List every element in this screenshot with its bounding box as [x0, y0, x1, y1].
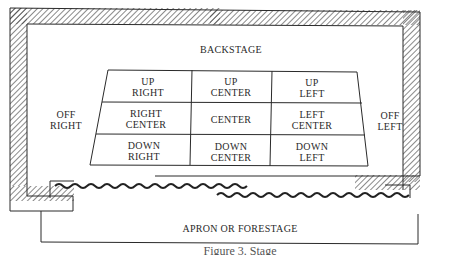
cell-line: DOWN — [270, 141, 354, 152]
cell-line: LEFT — [270, 88, 354, 99]
off-right-line2: RIGHT — [44, 120, 88, 131]
cell-line: CENTER — [270, 120, 354, 131]
cell-line: UP — [189, 76, 273, 87]
cell-line: CENTER — [189, 87, 273, 98]
cell-line: RIGHT — [106, 87, 190, 98]
figure-caption: Figure 3. Stage — [160, 244, 320, 255]
off-left-line2: LEFT — [368, 121, 412, 132]
cell-up-left: UP LEFT — [270, 77, 354, 99]
off-right-line1: OFF — [44, 109, 88, 120]
cell-line: LEFT — [270, 109, 354, 120]
cell-line: RIGHT — [104, 108, 188, 119]
cell-down-center: DOWN CENTER — [189, 141, 273, 163]
cell-center: CENTER — [189, 114, 273, 125]
cell-line: CENTER — [104, 119, 188, 130]
cell-line: UP — [106, 76, 190, 87]
cell-right-center: RIGHT CENTER — [104, 108, 188, 130]
off-right-label: OFF RIGHT — [44, 109, 88, 131]
off-left-label: OFF LEFT — [368, 110, 412, 132]
cell-line: RIGHT — [102, 151, 186, 162]
cell-left-center: LEFT CENTER — [270, 109, 354, 131]
cell-line: CENTER — [189, 152, 273, 163]
cell-line: LEFT — [270, 152, 354, 163]
cell-line: DOWN — [189, 141, 273, 152]
cell-down-right: DOWN RIGHT — [102, 140, 186, 162]
cell-line: UP — [270, 77, 354, 88]
cell-up-center: UP CENTER — [189, 76, 273, 98]
cell-line: DOWN — [102, 140, 186, 151]
cell-line: CENTER — [189, 114, 273, 125]
apron-label: APRON OR FORESTAGE — [150, 223, 330, 234]
backstage-label: BACKSTAGE — [188, 44, 274, 55]
cell-down-left: DOWN LEFT — [270, 141, 354, 163]
cell-up-right: UP RIGHT — [106, 76, 190, 98]
off-left-line1: OFF — [368, 110, 412, 121]
